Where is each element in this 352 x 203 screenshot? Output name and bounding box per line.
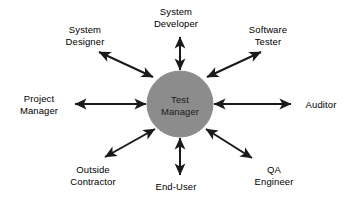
node-label-system-developer: System Developer — [140, 6, 212, 29]
hub-label-line-2: Manager — [150, 106, 210, 118]
spoke-qa-engineer — [206, 129, 252, 158]
hub-label-line-1: Test — [150, 94, 210, 106]
stakeholder-wheel-diagram: Test Manager System Designer System Deve… — [0, 0, 352, 203]
node-label-outside-contractor: Outside Contractor — [56, 164, 130, 187]
node-label-end-user: End-User — [144, 181, 208, 193]
node-label-project-manager-line-1: Project — [6, 93, 72, 105]
spoke-outside-contractor — [105, 129, 155, 157]
node-label-software-tester-line-2: Tester — [234, 36, 302, 48]
node-label-system-designer-line-1: System — [52, 24, 118, 36]
node-label-auditor: Auditor — [296, 99, 346, 111]
node-label-outside-contractor-line-2: Contractor — [56, 176, 130, 188]
node-label-end-user-line-1: End-User — [144, 181, 208, 193]
node-label-software-tester: Software Tester — [234, 24, 302, 47]
node-label-system-developer-line-2: Developer — [140, 18, 212, 30]
node-label-system-designer-line-2: Designer — [52, 36, 118, 48]
spoke-system-designer — [99, 52, 153, 77]
spoke-software-tester — [207, 52, 261, 77]
node-label-qa-engineer-line-1: QA — [244, 164, 304, 176]
node-label-system-designer: System Designer — [52, 24, 118, 47]
node-label-qa-engineer-line-2: Engineer — [244, 176, 304, 188]
node-label-auditor-line-1: Auditor — [296, 99, 346, 111]
node-label-software-tester-line-1: Software — [234, 24, 302, 36]
node-label-project-manager: Project Manager — [6, 93, 72, 116]
node-label-project-manager-line-2: Manager — [6, 105, 72, 117]
test-manager-hub-label: Test Manager — [150, 94, 210, 117]
node-label-system-developer-line-1: System — [140, 6, 212, 18]
node-label-qa-engineer: QA Engineer — [244, 164, 304, 187]
node-label-outside-contractor-line-1: Outside — [56, 164, 130, 176]
